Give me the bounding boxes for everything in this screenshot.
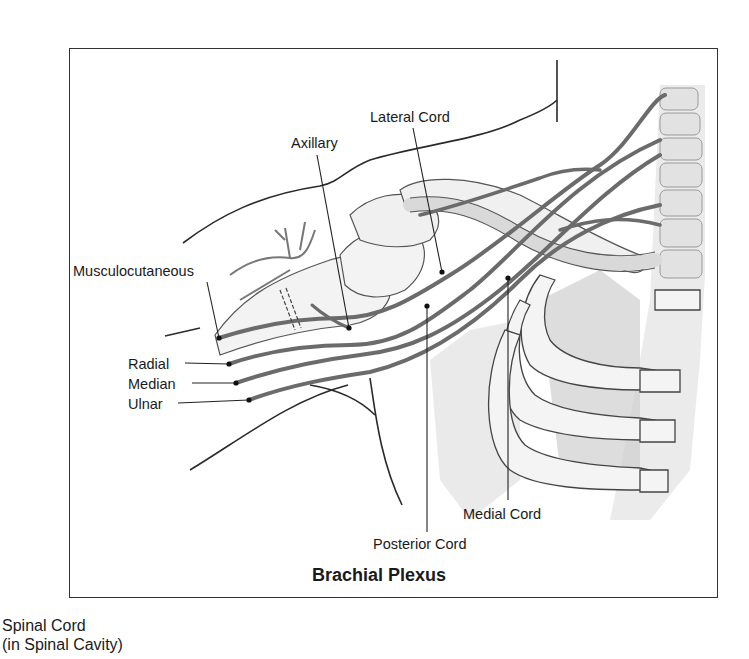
vertebrae xyxy=(660,88,702,278)
label-axillary: Axillary xyxy=(291,135,338,151)
label-lateral-cord: Lateral Cord xyxy=(370,109,450,125)
label-posterior-cord: Posterior Cord xyxy=(373,536,466,552)
brachial-plexus-illustration xyxy=(0,0,749,659)
caption-line-2: (in Spinal Cavity) xyxy=(2,635,123,654)
label-median: Median xyxy=(128,376,176,392)
label-ulnar: Ulnar xyxy=(128,396,163,412)
caption-line-1: Spinal Cord xyxy=(2,616,123,635)
label-radial: Radial xyxy=(128,356,169,372)
figure-title: Brachial Plexus xyxy=(312,565,446,586)
label-medial-cord: Medial Cord xyxy=(463,506,541,522)
label-musculocutaneous: Musculocutaneous xyxy=(73,263,194,279)
caption: Spinal Cord (in Spinal Cavity) xyxy=(2,616,123,654)
